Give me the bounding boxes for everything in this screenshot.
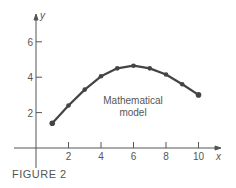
x-tick-label: 6: [131, 151, 137, 162]
annotation-line2: model: [119, 107, 146, 118]
x-tick-label: 10: [193, 151, 205, 162]
data-point: [196, 92, 202, 98]
axes: [14, 14, 221, 168]
x-tick-label: 2: [66, 151, 72, 162]
data-point: [82, 87, 87, 92]
data-point: [99, 74, 104, 79]
data-point: [115, 66, 120, 71]
x-axis-label: x: [215, 151, 222, 162]
y-tick-label: 6: [27, 37, 33, 48]
y-tick-label: 2: [27, 108, 33, 119]
data-point: [180, 82, 185, 87]
data-point: [131, 63, 136, 68]
y-axis-arrow-icon: [34, 14, 38, 20]
x-tick-label: 4: [98, 151, 104, 162]
x-tick-label: 8: [163, 151, 169, 162]
chart-plot: 246810246 x y Mathematical model: [0, 0, 236, 188]
y-tick-label: 4: [27, 72, 33, 83]
figure-caption: FIGURE 2: [12, 168, 67, 180]
data-point: [164, 72, 169, 77]
annotation-line1: Mathematical: [103, 95, 162, 106]
data-point: [66, 103, 71, 108]
data-point: [49, 120, 55, 126]
y-axis-label: y: [39, 10, 46, 21]
data-point: [147, 66, 152, 71]
x-axis-arrow-icon: [215, 146, 221, 150]
